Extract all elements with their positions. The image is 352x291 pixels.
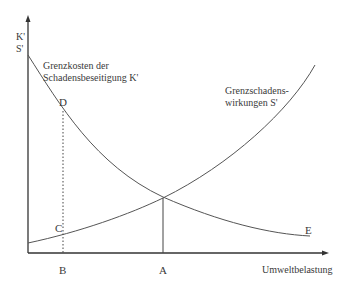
point-c-label: C bbox=[55, 222, 62, 234]
x-axis-arrow-icon bbox=[322, 251, 329, 256]
s-curve-label-line1: Grenzschadens- bbox=[225, 85, 289, 97]
s-curve-label-line2: wirkungen S' bbox=[225, 97, 278, 109]
point-d-label: D bbox=[59, 96, 67, 108]
y-axis-label-k: K' bbox=[16, 31, 25, 43]
diagram-canvas bbox=[0, 0, 352, 291]
y-axis-arrow-icon bbox=[26, 15, 31, 22]
x-axis-label: Umweltbelastung bbox=[262, 264, 333, 276]
k-curve-label-line2: Schadensbeseitigung K' bbox=[43, 72, 138, 84]
y-axis-label-s: S' bbox=[16, 43, 23, 55]
tick-b-label: B bbox=[59, 264, 66, 276]
tick-a-label: A bbox=[159, 264, 167, 276]
k-curve-label-line1: Grenzkosten der bbox=[43, 60, 109, 72]
point-e-label: E bbox=[305, 224, 312, 236]
